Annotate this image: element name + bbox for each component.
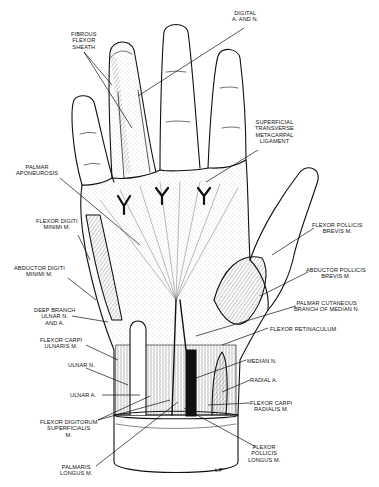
- label-palmar-cutaneous-branch: PALMAR CUTANEOUS BRANCH OF MEDIAN N.: [294, 300, 359, 313]
- label-deep-branch-ulnar: DEEP BRANCH ULNAR N. AND A.: [34, 307, 75, 326]
- label-flexor-carpi-radialis: FLEXOR CARPI RADIALIS M.: [250, 400, 292, 413]
- label-ulnar-a: ULNAR A.: [70, 392, 96, 398]
- label-median-n: MEDIAN N.: [247, 358, 277, 364]
- forearm-cut: [114, 415, 238, 473]
- middle-finger: [160, 25, 200, 171]
- label-flexor-carpi-ulnaris: FLEXOR CARPI ULNARIS M.: [40, 337, 82, 350]
- label-palmar-aponeurosis: PALMAR APONEUROSIS: [16, 164, 58, 177]
- label-abductor-pollicis-brevis: ABDUCTOR POLLICIS BREVIS M.: [306, 267, 366, 280]
- label-flexor-retinaculum: FLEXOR RETINACULUM: [270, 326, 336, 332]
- hand-illustration: k.P: [0, 0, 379, 487]
- label-abductor-digiti-minimi: ABDUCTOR DIGITI MINIMI M.: [14, 265, 65, 278]
- label-fibrous-flexor-sheath: FIBROUS FLEXOR SHEATH: [71, 31, 97, 50]
- label-ulnar-n: ULNAR N.: [68, 362, 95, 368]
- artist-signature: k.P: [215, 467, 223, 473]
- label-superficial-transverse-metacarpal-ligament: SUPERFICIAL TRANSVERSE METACARPAL LIGAME…: [255, 119, 294, 145]
- anatomy-figure: k.P DIGITAL A. AND N. FIBROUS FLEXOR SHE…: [0, 0, 379, 487]
- label-flexor-digiti-minimi: FLEXOR DIGITI MINIMI M.: [36, 218, 78, 231]
- label-palmaris-longus: PALMARIS LONGUS M.: [60, 464, 92, 477]
- label-flexor-pollicis-brevis: FLEXOR POLLICIS BREVIS M.: [312, 222, 363, 235]
- little-finger: [72, 96, 114, 185]
- label-flexor-digitorum-superficialis: FLEXOR DIGITORUM SUPERFICIALIS M.: [40, 419, 97, 438]
- label-radial-a: RADIAL A.: [250, 377, 277, 383]
- label-digital-a-and-n: DIGITAL A. AND N.: [232, 10, 258, 23]
- index-finger: [208, 49, 246, 168]
- label-flexor-pollicis-longus: FLEXOR POLLICIS LONGUS M.: [248, 444, 280, 463]
